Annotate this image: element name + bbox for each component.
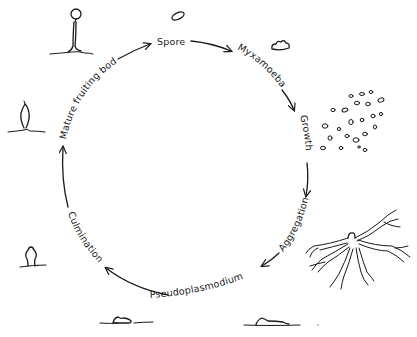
spore-illustration (171, 10, 185, 21)
arrow-fruiting-to-spore (118, 44, 150, 59)
growth-cells-illustration (321, 91, 385, 152)
stage-label-myxamoeba: Myxamoeba (236, 41, 289, 89)
arrow-growth-to-aggregation (306, 163, 308, 196)
myxamoeba-illustration (272, 41, 289, 50)
aggregation-streams-illustration (306, 210, 410, 289)
mature-fruiting-body-illustration (50, 9, 93, 54)
stage-label-aggregation: Aggregation (276, 196, 311, 254)
arrow-culmination-to-fruiting (63, 147, 68, 207)
stage-label-spore: Spore (157, 36, 185, 47)
rising-sorocarp-illustration (8, 101, 45, 132)
life-cycle-diagram: Spore Myxamoeba Growth Aggregation Pseud… (0, 0, 417, 337)
pseudoplasmodium-slug-illustration (100, 317, 153, 324)
stage-label-growth: Growth (298, 114, 315, 152)
culmination-illustration (20, 247, 46, 267)
migrating-slug-illustration (244, 318, 319, 326)
arrow-spore-to-myxamoeba (191, 41, 231, 51)
stage-label-pseudoplasmodium: Pseudoplasmodium (149, 270, 244, 300)
arrow-myxamoeba-to-growth (282, 90, 294, 110)
arrow-aggregation-to-pseudoplasmodium (262, 253, 279, 266)
stage-label-culmination: Culmination (66, 210, 106, 265)
stage-label-mature-fruiting-body: Mature fruiting body (0, 0, 118, 140)
